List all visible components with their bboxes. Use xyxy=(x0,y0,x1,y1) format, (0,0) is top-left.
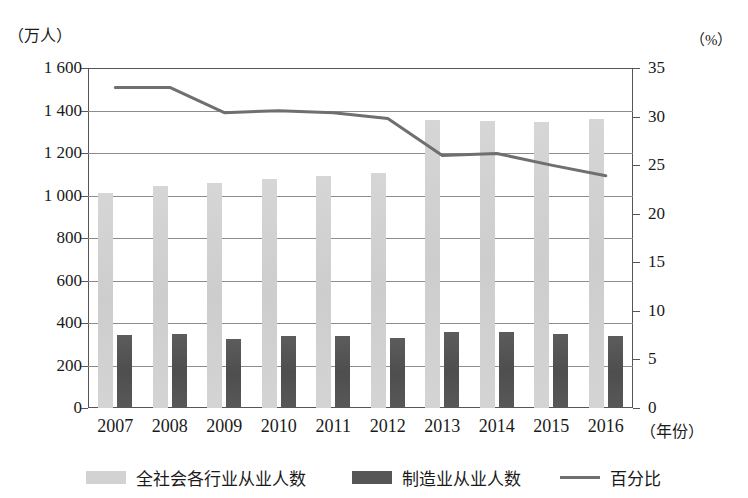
x-axis-title: （年份） xyxy=(640,418,704,442)
bar-total-employment xyxy=(262,179,277,409)
bar-total-employment xyxy=(153,186,168,408)
bar-manufacturing-employment xyxy=(608,336,623,408)
x-tick-label: 2012 xyxy=(361,416,416,437)
left-tick-mark xyxy=(81,238,88,239)
right-tick-mark xyxy=(633,262,640,263)
bar-total-employment xyxy=(316,176,331,408)
left-axis-unit-label: （万人） xyxy=(8,22,72,46)
plot-area xyxy=(88,68,633,408)
x-tick-label: 2011 xyxy=(306,416,361,437)
right-tick-mark xyxy=(633,311,640,312)
left-tick-label: 1 000 xyxy=(44,187,82,204)
bar-manufacturing-employment xyxy=(553,334,568,408)
x-tick-label: 2007 xyxy=(88,416,143,437)
employment-dual-axis-chart: （万人） （%） 02004006008001 0001 2001 4001 6… xyxy=(0,0,748,498)
bar-total-employment xyxy=(480,121,495,408)
left-tick-mark xyxy=(81,196,88,197)
bar-total-employment xyxy=(534,122,549,408)
left-tick-label: 200 xyxy=(57,357,83,374)
bar-total-employment xyxy=(589,119,604,408)
bar-total-employment xyxy=(371,173,386,408)
gridline xyxy=(88,196,633,197)
bar-total-employment xyxy=(98,193,113,408)
bar-manufacturing-employment xyxy=(444,332,459,409)
legend-label-total-employment: 全社会各行业从业人数 xyxy=(136,465,306,490)
legend-item-total-employment: 全社会各行业从业人数 xyxy=(86,465,306,490)
legend-swatch-line xyxy=(560,471,600,484)
right-tick-label: 5 xyxy=(648,350,657,367)
x-tick-label: 2013 xyxy=(415,416,470,437)
bar-total-employment xyxy=(425,120,440,408)
gridline xyxy=(88,153,633,154)
left-tick-mark xyxy=(81,281,88,282)
left-tick-mark xyxy=(81,408,88,409)
right-tick-mark xyxy=(633,214,640,215)
bar-manufacturing-employment xyxy=(281,336,296,408)
legend-swatch-light xyxy=(86,471,126,484)
right-tick-mark xyxy=(633,165,640,166)
left-tick-mark xyxy=(81,323,88,324)
gridline xyxy=(88,323,633,324)
bar-total-employment xyxy=(207,183,222,408)
right-tick-label: 25 xyxy=(648,156,665,173)
right-tick-mark xyxy=(633,117,640,118)
x-tick-label: 2010 xyxy=(252,416,307,437)
right-tick-mark xyxy=(633,68,640,69)
right-tick-mark xyxy=(633,408,640,409)
right-tick-mark xyxy=(633,359,640,360)
gridline xyxy=(88,366,633,367)
left-tick-label: 600 xyxy=(57,272,83,289)
gridline xyxy=(88,111,633,112)
right-tick-label: 15 xyxy=(648,253,665,270)
legend-label-percentage: 百分比 xyxy=(610,465,661,490)
legend-item-manufacturing-employment: 制造业从业人数 xyxy=(352,465,521,490)
x-tick-label: 2014 xyxy=(470,416,525,437)
x-tick-label: 2009 xyxy=(197,416,252,437)
left-tick-mark xyxy=(81,153,88,154)
gridline xyxy=(88,238,633,239)
right-tick-label: 0 xyxy=(648,399,657,416)
right-tick-label: 20 xyxy=(648,205,665,222)
gridline xyxy=(88,281,633,282)
bar-manufacturing-employment xyxy=(335,336,350,408)
right-tick-label: 10 xyxy=(648,302,665,319)
legend-label-manufacturing-employment: 制造业从业人数 xyxy=(402,465,521,490)
right-tick-label: 35 xyxy=(648,59,665,76)
bar-manufacturing-employment xyxy=(390,338,405,408)
bar-manufacturing-employment xyxy=(117,335,132,408)
legend-swatch-dark xyxy=(352,471,392,484)
left-tick-label: 1 400 xyxy=(44,102,82,119)
x-tick-label: 2015 xyxy=(524,416,579,437)
left-tick-mark xyxy=(81,366,88,367)
left-tick-label: 1 600 xyxy=(44,59,82,76)
bar-manufacturing-employment xyxy=(499,332,514,409)
left-tick-mark xyxy=(81,111,88,112)
x-tick-label: 2016 xyxy=(579,416,634,437)
right-axis-unit-label: （%） xyxy=(690,28,733,49)
left-tick-mark xyxy=(81,68,88,69)
chart-legend: 全社会各行业从业人数 制造业从业人数 百分比 xyxy=(0,462,748,496)
bar-manufacturing-employment xyxy=(226,339,241,408)
left-tick-label: 400 xyxy=(57,314,83,331)
left-tick-label: 800 xyxy=(57,229,83,246)
left-tick-label: 1 200 xyxy=(44,144,82,161)
x-tick-label: 2008 xyxy=(143,416,198,437)
right-tick-label: 30 xyxy=(648,108,665,125)
bar-manufacturing-employment xyxy=(172,334,187,408)
legend-item-percentage: 百分比 xyxy=(560,465,661,490)
